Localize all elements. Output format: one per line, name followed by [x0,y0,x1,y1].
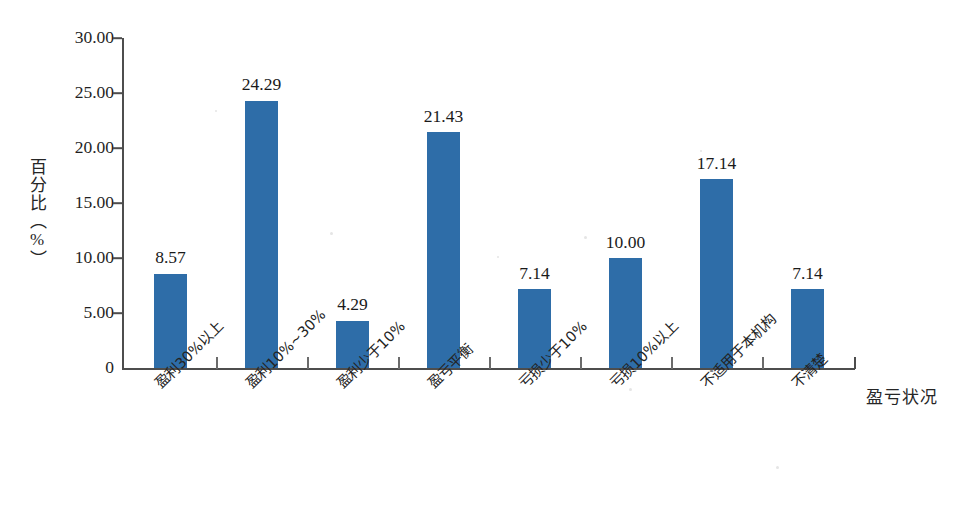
bar-value-label: 21.43 [424,108,463,126]
y-axis-tick-mark [113,257,122,259]
bar-chart-figure: 百分比（%） 30.0025.0020.0015.0010.005.000 8.… [0,0,967,509]
y-axis-tick-label: 25.00 [48,84,114,102]
bar-group[interactable]: 24.29 [245,38,278,368]
bar-value-label: 17.14 [697,155,736,173]
bar-value-label: 24.29 [242,76,281,94]
scan-speckle [497,256,499,258]
x-axis-title: 盈亏状况 [866,383,938,408]
y-axis-tick-label: 0 [48,359,114,377]
bar-group[interactable]: 10.00 [609,38,642,368]
y-axis-tick-mark [113,312,122,314]
bar-group[interactable]: 4.29 [336,38,369,368]
bar-value-label: 7.14 [792,265,823,283]
bar-group[interactable]: 7.14 [791,38,824,368]
y-axis-tick-mark [113,202,122,204]
bar-value-label: 8.57 [155,249,186,267]
scan-speckle [629,388,632,391]
y-axis-tick-mark [113,37,122,39]
scan-speckle [700,150,702,152]
y-axis-tick-label: 30.00 [48,29,114,47]
plot-area: 8.5724.294.2921.437.1410.0017.147.14 [122,38,855,368]
bar-group[interactable]: 8.57 [154,38,187,368]
y-axis-tick-label: 20.00 [48,139,114,157]
y-axis-tick-mark [113,92,122,94]
y-axis-tick-label: 5.00 [48,304,114,322]
scan-speckle [330,232,333,235]
y-axis-tick-mark [113,147,122,149]
bar-value-label: 4.29 [337,296,368,314]
y-axis-tick-labels: 30.0025.0020.0015.0010.005.000 [46,0,114,509]
bar[interactable] [700,179,733,368]
scan-speckle [584,236,587,239]
scan-speckle [215,110,217,112]
bar[interactable] [427,132,460,368]
bar-value-label: 10.00 [606,234,645,252]
bar-group[interactable]: 21.43 [427,38,460,368]
y-axis-tick-label: 15.00 [48,194,114,212]
bar-group[interactable]: 17.14 [700,38,733,368]
bar-value-label: 7.14 [519,265,550,283]
bar[interactable] [245,101,278,368]
y-axis-tick-label: 10.00 [48,249,114,267]
scan-speckle [776,466,779,469]
bar-group[interactable]: 7.14 [518,38,551,368]
